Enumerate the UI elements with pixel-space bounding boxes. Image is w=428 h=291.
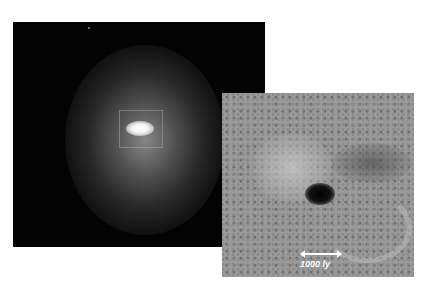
double-arrow-icon	[304, 253, 338, 255]
nucleus-closeup-image: 1000 ly	[222, 93, 414, 277]
background-star	[88, 27, 90, 29]
galaxy-core	[126, 121, 154, 136]
scale-label: 1000 ly	[300, 259, 330, 269]
dark-dust-lane	[332, 143, 412, 183]
dark-nucleus	[305, 183, 335, 205]
